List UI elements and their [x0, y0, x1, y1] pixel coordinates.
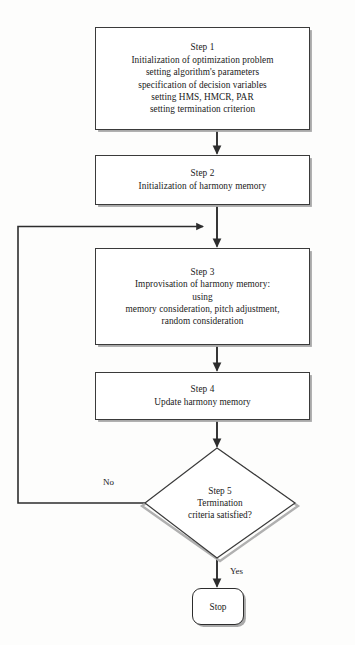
- node-step4: Step 4 Update harmony memory: [95, 372, 310, 420]
- edge-label-no: No: [103, 477, 114, 487]
- step1-line-0: Step 1: [191, 41, 215, 53]
- step5-line-2: criteria satisfied?: [188, 509, 252, 521]
- step1-line-4: setting HMS, HMCR, PAR: [151, 91, 253, 103]
- step1-line-3: specification of decision variables: [138, 79, 267, 91]
- node-step2: Step 2 Initialization of harmony memory: [95, 155, 310, 205]
- stop-label: Stop: [209, 602, 226, 612]
- flowchart-diagram: Step 1 Initialization of optimization pr…: [0, 0, 355, 645]
- node-step5-decision: Step 5 Termination criteria satisfied?: [145, 448, 295, 558]
- step2-line-1: Initialization of harmony memory: [139, 180, 267, 192]
- step5-line-1: Termination: [188, 497, 252, 509]
- step5-line-0: Step 5: [188, 485, 252, 497]
- step2-line-0: Step 2: [191, 167, 215, 179]
- step5-text: Step 5 Termination criteria satisfied?: [188, 485, 252, 521]
- node-stop-terminator: Stop: [192, 588, 244, 625]
- step3-line-0: Step 3: [191, 266, 215, 278]
- step3-line-4: random consideration: [162, 315, 244, 327]
- node-step1: Step 1 Initialization of optimization pr…: [95, 27, 310, 130]
- step1-line-2: setting algorithm's parameters: [146, 66, 259, 78]
- node-step3: Step 3 Improvisation of harmony memory: …: [95, 248, 310, 345]
- step4-line-1: Update harmony memory: [154, 396, 251, 408]
- step3-line-2: using: [192, 291, 212, 303]
- step3-line-3: memory consideration, pitch adjustment,: [125, 303, 279, 315]
- step1-line-1: Initialization of optimization problem: [131, 54, 273, 66]
- step4-line-0: Step 4: [191, 383, 215, 395]
- step3-line-1: Improvisation of harmony memory:: [135, 278, 270, 290]
- edge-label-yes: Yes: [230, 566, 243, 576]
- step1-line-5: setting termination criterion: [150, 103, 255, 115]
